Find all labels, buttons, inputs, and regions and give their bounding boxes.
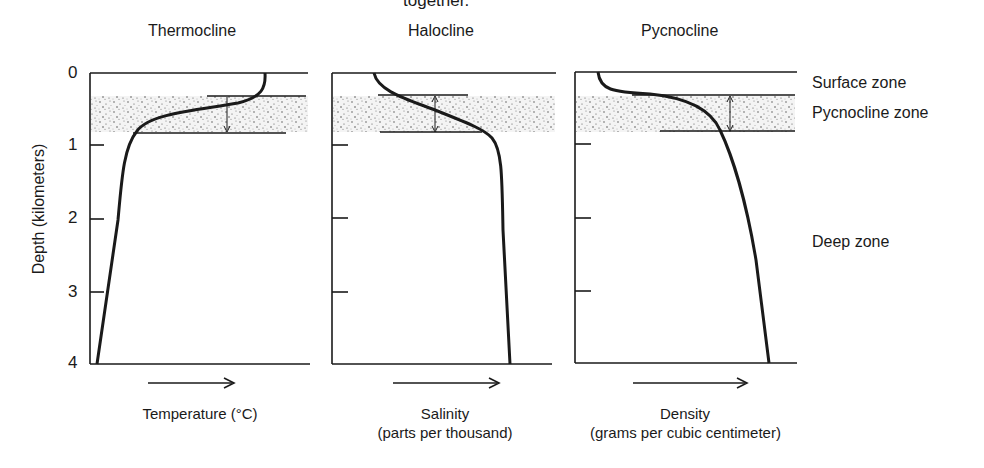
arrow-right-icon-temperature <box>148 378 234 388</box>
depth-profile-diagram <box>0 0 984 468</box>
arrow-right-icon-density <box>633 378 747 388</box>
x-direction-arrows <box>148 378 747 388</box>
arrow-right-icon-salinity <box>393 378 499 388</box>
